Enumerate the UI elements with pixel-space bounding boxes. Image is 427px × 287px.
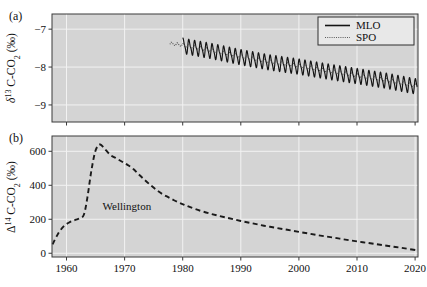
- panel-b-axis-title: Δ14 C-CO2 (‰): [4, 161, 22, 233]
- xtick-label: 2020: [404, 262, 427, 274]
- panel-a-ylabel-rest: C-CO: [5, 59, 17, 89]
- svg-text:δ13 C-CO2 (‰): δ13 C-CO2 (‰): [4, 33, 22, 103]
- panel-b-ylabel-rest: C-CO: [5, 187, 17, 217]
- ytick-label: 200: [30, 213, 47, 225]
- panel-a-axis-title: δ13 C-CO2 (‰): [4, 33, 22, 103]
- xtick-label: 1990: [230, 262, 253, 274]
- svg-text:Δ14 C-CO2 (‰): Δ14 C-CO2 (‰): [4, 161, 22, 233]
- two-panel-chart: −7−8−9 (a) δ13 C-CO2 (‰) MLO SPO: [0, 0, 427, 287]
- panel-a-label: (a): [9, 9, 22, 23]
- xtick-label: 1980: [172, 262, 195, 274]
- xtick-label: 2010: [346, 262, 369, 274]
- xtick-label: 1960: [56, 262, 79, 274]
- ytick-label: 600: [30, 145, 47, 157]
- panel-b-xtick-labels: 1960197019801990200020102020: [56, 262, 427, 274]
- ytick-label: −7: [34, 23, 46, 35]
- panel-a-ytick-labels: −7−8−9: [34, 23, 46, 111]
- panel-b-plot-background: [52, 136, 418, 257]
- ytick-label: −9: [34, 99, 46, 111]
- panel-a-ylabel-superscript: 13: [4, 90, 13, 98]
- xtick-label: 2000: [288, 262, 311, 274]
- panel-b-ylabel-superscript: 14: [4, 218, 13, 226]
- ytick-label: 0: [41, 247, 47, 259]
- panel-a: −7−8−9 (a) δ13 C-CO2 (‰) MLO SPO: [4, 9, 419, 126]
- panel-b-label: (b): [9, 131, 23, 145]
- annotation-wellington: Wellington: [103, 200, 152, 212]
- panel-a-ylabel-units: (‰): [5, 33, 18, 55]
- panel-b-ytick-labels: 0200400600: [30, 145, 47, 259]
- panel-b: 0200400600 1960197019801990200020102020 …: [4, 131, 427, 274]
- figure-container: −7−8−9 (a) δ13 C-CO2 (‰) MLO SPO: [0, 0, 427, 287]
- xtick-label: 1970: [114, 262, 137, 274]
- legend-label-mlo: MLO: [356, 19, 381, 31]
- panel-b-annotations: Wellington: [103, 200, 152, 212]
- panel-b-ylabel-units: (‰): [5, 161, 18, 183]
- panel-b-ylabel-delta: Δ: [5, 226, 17, 233]
- ytick-label: −8: [34, 61, 46, 73]
- legend-label-spo: SPO: [356, 31, 376, 43]
- ytick-label: 400: [30, 179, 47, 191]
- legend[interactable]: MLO SPO: [318, 17, 414, 45]
